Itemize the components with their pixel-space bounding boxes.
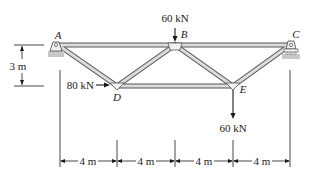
span-4-label: 4 m — [254, 155, 271, 167]
joint-D-label: D — [112, 91, 121, 103]
height-dimension-label: 3 m — [10, 60, 27, 72]
joint-C-label: C — [292, 28, 300, 40]
load-E-label: 60 kN — [219, 122, 246, 134]
gusset-plates — [110, 43, 240, 90]
span-2-label: 4 m — [138, 155, 155, 167]
truss-diagram: 60 kN 80 kN 60 kN A B C D E 3 m 4 m 4 m … — [0, 0, 310, 173]
joint-A-label: A — [54, 29, 62, 41]
dimension-arrowheads — [20, 46, 290, 163]
span-1-label: 4 m — [80, 155, 97, 167]
load-D-label: 80 kN — [67, 79, 94, 91]
load-B-label: 60 kN — [161, 12, 188, 24]
joint-E-label: E — [239, 83, 247, 95]
joint-B-plate — [168, 43, 182, 50]
span-3-label: 4 m — [196, 155, 213, 167]
joint-B-label: B — [181, 28, 188, 40]
